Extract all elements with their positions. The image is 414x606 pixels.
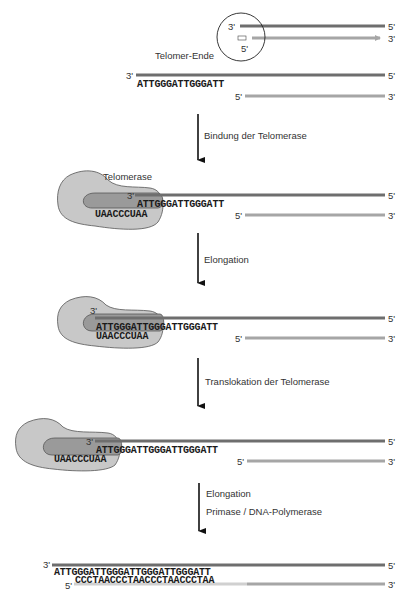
end-label: 3': [43, 559, 50, 570]
end-label: 5': [388, 190, 395, 201]
end-label: 5': [388, 436, 395, 447]
end-label: 5': [235, 210, 242, 221]
end-label: 3': [126, 70, 133, 81]
end-label: 5': [235, 91, 242, 102]
end-label: 5': [388, 70, 395, 81]
rna-template-sequence: UAACCCUAA: [96, 331, 148, 342]
overview-telomere-end: 3' 5' 5' 3' Telomer-Ende: [155, 13, 395, 61]
end-label: 5': [65, 580, 72, 591]
end-label: 3': [388, 579, 395, 590]
end-label: 3': [90, 305, 97, 316]
end-label: 5': [388, 560, 395, 571]
stage-binding: Telomerase 3' 5' 5' 3' ATTGGGATTGGGATT U…: [58, 171, 396, 229]
end-label: 3': [388, 333, 395, 344]
end-label: 5': [235, 333, 242, 344]
step-elongation-1: Elongation: [198, 233, 249, 283]
end-label: 5': [237, 456, 244, 467]
overview-bottom-left-end: 5': [241, 43, 248, 54]
dna-sequence: ATTGGGATTGGGATTGGGATT: [96, 445, 218, 456]
dna-sequence: ATTGGGATTGGGATT: [137, 199, 224, 210]
step-label: Translokation der Telomerase: [205, 376, 330, 387]
dna-sequence: ATTGGGATTGGGATT: [137, 79, 224, 90]
telomerase-label: Telomerase: [103, 171, 152, 182]
step-elongation-polymerase: Elongation Primase / DNA-Polymerase: [199, 483, 322, 531]
end-label: 3': [388, 456, 395, 467]
rna-template-sequence: UAACCCUAA: [95, 209, 147, 220]
complement-sequence: CCCTAACCCTAACCCTAACCCTAA: [75, 575, 214, 586]
end-label: 3': [86, 436, 93, 447]
stage-initial: 3' 5' 5' 3' ATTGGGATTGGGATT: [126, 70, 395, 102]
stage-elongation: 3' 5' 5' 3' ATTGGGATTGGGATTGGGATT UAACCC…: [58, 297, 396, 349]
step-sublabel: Primase / DNA-Polymerase: [206, 506, 322, 517]
end-label: 3': [388, 91, 395, 102]
primer-gap-icon: [238, 36, 246, 40]
end-label: 5': [388, 313, 395, 324]
overview-top-left-end: 3': [228, 21, 235, 32]
telomerase-diagram: 3' 5' 5' 3' Telomer-Ende 3' 5' 5' 3' ATT…: [0, 0, 414, 606]
stage-final: 3' 5' 5' 3' ATTGGGATTGGGATTGGGATTGGGATT …: [43, 559, 395, 591]
step-label: Bindung der Telomerase: [204, 130, 307, 141]
step-binding: Bindung der Telomerase: [198, 114, 307, 160]
end-label: 3': [388, 210, 395, 221]
step-translocation: Translokation der Telomerase: [198, 358, 330, 406]
overview-top-right-end: 5': [388, 21, 395, 32]
end-label: 3': [127, 190, 134, 201]
telomere-end-label: Telomer-Ende: [155, 50, 214, 61]
stage-translocation: 3' 5' 5' 3' ATTGGGATTGGGATTGGGATT UAACCC…: [16, 419, 396, 471]
step-label: Elongation: [206, 488, 251, 499]
rna-template-sequence: UAACCCUAA: [54, 454, 106, 465]
step-label: Elongation: [204, 254, 249, 265]
overview-bottom-right-end: 3': [388, 33, 395, 44]
